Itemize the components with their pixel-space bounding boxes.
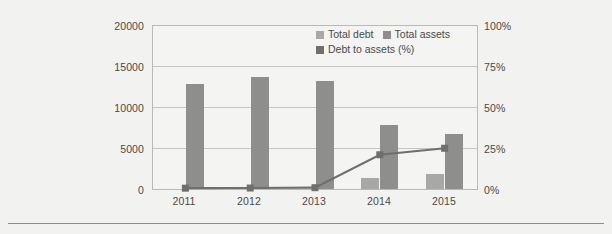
- x-axis-tick-2011: 2011: [154, 195, 214, 207]
- y-axis-right-tick: 75%: [484, 61, 530, 73]
- y-axis-left-tick: 5000: [84, 143, 144, 155]
- legend-swatch-icon: [383, 31, 391, 39]
- x-axis-tick-2013: 2013: [284, 195, 344, 207]
- legend-row-2: Debt to assets (%): [316, 42, 459, 57]
- y-axis-left-tick: 0: [84, 184, 144, 196]
- line-marker-2013: [312, 184, 319, 191]
- line-marker-2014: [376, 151, 383, 158]
- x-axis-tick-2015: 2015: [414, 195, 474, 207]
- legend-item-total-assets[interactable]: Total assets: [383, 27, 450, 42]
- chart-legend: Total debt Total assets Debt to assets (…: [316, 27, 459, 57]
- y-axis-left-tick: 20000: [84, 20, 144, 32]
- legend-label: Total debt: [328, 27, 374, 42]
- y-axis-right-tick: 50%: [484, 102, 530, 114]
- y-axis-right-tick: 100%: [484, 20, 530, 32]
- y-axis-right-tick: 0%: [484, 184, 530, 196]
- legend-label: Total assets: [395, 27, 450, 42]
- line-path: [185, 148, 444, 188]
- x-axis-tick-2014: 2014: [349, 195, 409, 207]
- chart-canvas: 20000 15000 10000 5000 0 100% 75% 50% 25…: [0, 0, 612, 234]
- line-marker-2011: [182, 185, 189, 192]
- legend-swatch-icon: [316, 46, 324, 54]
- line-marker-2015: [441, 145, 448, 152]
- legend-item-total-debt[interactable]: Total debt: [316, 27, 374, 42]
- legend-row-1: Total debt Total assets: [316, 27, 459, 42]
- bottom-divider: [8, 223, 604, 224]
- y-axis-left-tick: 10000: [84, 102, 144, 114]
- legend-item-debt-to-assets[interactable]: Debt to assets (%): [316, 42, 414, 57]
- y-axis-right-tick: 25%: [484, 143, 530, 155]
- legend-label: Debt to assets (%): [328, 42, 414, 57]
- y-axis-left-tick: 15000: [84, 61, 144, 73]
- legend-swatch-icon: [316, 31, 324, 39]
- x-axis-tick-2012: 2012: [219, 195, 279, 207]
- line-marker-2012: [247, 185, 254, 192]
